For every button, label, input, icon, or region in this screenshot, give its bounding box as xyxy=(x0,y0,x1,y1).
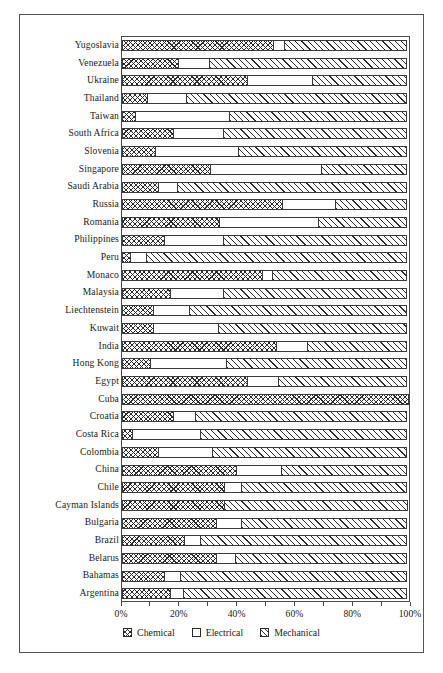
stacked-bar[interactable] xyxy=(122,500,409,511)
stacked-bar[interactable] xyxy=(122,465,409,476)
bar-segment-mechanical[interactable] xyxy=(146,252,407,263)
bar-segment-mechanical[interactable] xyxy=(272,270,407,281)
bar-segment-chemical[interactable] xyxy=(122,465,237,476)
bar-segment-electrical[interactable] xyxy=(247,376,279,387)
bar-segment-chemical[interactable] xyxy=(122,447,159,458)
bar-segment-chemical[interactable] xyxy=(122,394,409,405)
stacked-bar[interactable] xyxy=(122,146,409,157)
stacked-bar[interactable] xyxy=(122,252,409,263)
bar-segment-mechanical[interactable] xyxy=(209,58,407,69)
bar-segment-mechanical[interactable] xyxy=(218,323,407,334)
bar-segment-mechanical[interactable] xyxy=(312,75,407,86)
bar-segment-electrical[interactable] xyxy=(153,305,190,316)
bar-segment-mechanical[interactable] xyxy=(200,535,407,546)
stacked-bar[interactable] xyxy=(122,518,409,529)
bar-segment-chemical[interactable] xyxy=(122,128,174,139)
stacked-bar[interactable] xyxy=(122,93,409,104)
bar-segment-electrical[interactable] xyxy=(153,323,219,334)
bar-segment-chemical[interactable] xyxy=(122,588,171,599)
stacked-bar[interactable] xyxy=(122,270,409,281)
bar-segment-chemical[interactable] xyxy=(122,358,151,369)
stacked-bar[interactable] xyxy=(122,182,409,193)
bar-segment-chemical[interactable] xyxy=(122,305,154,316)
bar-segment-mechanical[interactable] xyxy=(321,164,407,175)
bar-segment-electrical[interactable] xyxy=(219,217,319,228)
stacked-bar[interactable] xyxy=(122,288,409,299)
stacked-bar[interactable] xyxy=(122,164,409,175)
stacked-bar[interactable] xyxy=(122,58,409,69)
bar-segment-mechanical[interactable] xyxy=(235,553,407,564)
bar-segment-mechanical[interactable] xyxy=(226,358,407,369)
bar-segment-mechanical[interactable] xyxy=(223,128,407,139)
bar-segment-mechanical[interactable] xyxy=(229,111,407,122)
bar-segment-chemical[interactable] xyxy=(122,571,165,582)
bar-segment-electrical[interactable] xyxy=(130,252,147,263)
bar-segment-chemical[interactable] xyxy=(122,323,154,334)
bar-segment-chemical[interactable] xyxy=(122,535,185,546)
bar-segment-mechanical[interactable] xyxy=(318,217,407,228)
bar-segment-electrical[interactable] xyxy=(247,75,313,86)
bar-segment-chemical[interactable] xyxy=(122,182,159,193)
bar-segment-electrical[interactable] xyxy=(158,182,178,193)
bar-segment-electrical[interactable] xyxy=(132,429,201,440)
bar-segment-mechanical[interactable] xyxy=(278,376,407,387)
stacked-bar[interactable] xyxy=(122,75,409,86)
stacked-bar[interactable] xyxy=(122,217,409,228)
stacked-bar[interactable] xyxy=(122,535,409,546)
legend-item-mechanical[interactable]: Mechanical xyxy=(260,627,320,638)
bar-segment-electrical[interactable] xyxy=(173,411,196,422)
stacked-bar[interactable] xyxy=(122,323,409,334)
bar-segment-chemical[interactable] xyxy=(122,553,217,564)
stacked-bar[interactable] xyxy=(122,376,409,387)
bar-segment-mechanical[interactable] xyxy=(186,93,407,104)
bar-segment-electrical[interactable] xyxy=(236,465,282,476)
bar-segment-mechanical[interactable] xyxy=(307,341,407,352)
bar-segment-mechanical[interactable] xyxy=(335,199,407,210)
bar-segment-mechanical[interactable] xyxy=(200,429,407,440)
bar-segment-electrical[interactable] xyxy=(164,571,181,582)
bar-segment-electrical[interactable] xyxy=(216,518,242,529)
bar-segment-mechanical[interactable] xyxy=(212,447,407,458)
bar-segment-chemical[interactable] xyxy=(122,270,263,281)
stacked-bar[interactable] xyxy=(122,588,409,599)
bar-segment-electrical[interactable] xyxy=(178,58,210,69)
bar-segment-chemical[interactable] xyxy=(122,518,217,529)
stacked-bar[interactable] xyxy=(122,482,409,493)
stacked-bar[interactable] xyxy=(122,128,409,139)
bar-segment-electrical[interactable] xyxy=(170,588,184,599)
bar-segment-chemical[interactable] xyxy=(122,341,277,352)
bar-segment-chemical[interactable] xyxy=(122,235,165,246)
bar-segment-electrical[interactable] xyxy=(210,164,322,175)
stacked-bar[interactable] xyxy=(122,341,409,352)
bar-segment-electrical[interactable] xyxy=(158,447,213,458)
stacked-bar[interactable] xyxy=(122,411,409,422)
bar-segment-electrical[interactable] xyxy=(216,553,236,564)
bar-segment-electrical[interactable] xyxy=(224,482,241,493)
bar-segment-mechanical[interactable] xyxy=(281,465,407,476)
bar-segment-electrical[interactable] xyxy=(173,128,225,139)
bar-segment-electrical[interactable] xyxy=(147,93,187,104)
bar-segment-mechanical[interactable] xyxy=(195,411,407,422)
bar-segment-electrical[interactable] xyxy=(150,358,227,369)
stacked-bar[interactable] xyxy=(122,358,409,369)
bar-segment-electrical[interactable] xyxy=(164,235,224,246)
stacked-bar[interactable] xyxy=(122,447,409,458)
bar-segment-electrical[interactable] xyxy=(155,146,238,157)
bar-segment-chemical[interactable] xyxy=(122,58,179,69)
bar-segment-electrical[interactable] xyxy=(282,199,337,210)
bar-segment-chemical[interactable] xyxy=(122,164,211,175)
bar-segment-chemical[interactable] xyxy=(122,500,225,511)
bar-segment-chemical[interactable] xyxy=(122,482,225,493)
bar-segment-chemical[interactable] xyxy=(122,217,220,228)
legend-item-electrical[interactable]: Electrical xyxy=(192,627,244,638)
stacked-bar[interactable] xyxy=(122,199,409,210)
stacked-bar[interactable] xyxy=(122,111,409,122)
bar-segment-mechanical[interactable] xyxy=(183,588,407,599)
bar-segment-chemical[interactable] xyxy=(122,40,274,51)
bar-segment-electrical[interactable] xyxy=(170,288,225,299)
bar-segment-chemical[interactable] xyxy=(122,376,248,387)
bar-segment-mechanical[interactable] xyxy=(180,571,407,582)
bar-segment-chemical[interactable] xyxy=(122,93,148,104)
bar-segment-chemical[interactable] xyxy=(122,288,171,299)
bar-segment-mechanical[interactable] xyxy=(284,40,407,51)
